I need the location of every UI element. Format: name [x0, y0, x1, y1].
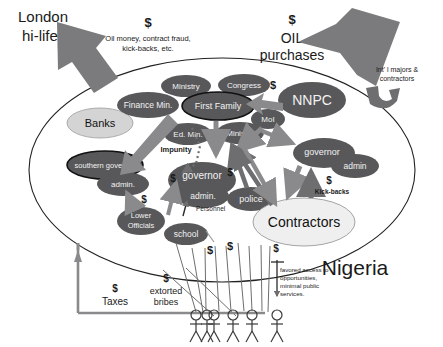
diagram-canvas: London hi-life $ Oil money, contract fra…	[0, 0, 443, 347]
node-contractors[interactable]: Contractors	[253, 198, 355, 246]
london-label-line1: London	[18, 8, 68, 25]
node-school-label: school	[174, 229, 199, 239]
citizen-figure	[227, 310, 239, 342]
node-congress-label: Congress	[227, 81, 261, 90]
node-police-label: police	[239, 194, 263, 204]
majors-exchange-arrows	[366, 86, 400, 108]
node-finance-min-label: Finance Min.	[124, 100, 173, 110]
node-school[interactable]: school	[164, 223, 208, 245]
arrow-ministry-to-governor-right	[262, 131, 292, 143]
favored-line2: opportunities,	[280, 274, 317, 281]
node-admin-right[interactable]: admin	[331, 154, 379, 178]
citizen-figure	[190, 310, 202, 342]
node-admin-center-label: admin.	[190, 191, 216, 201]
arrow-governor-right-down	[288, 166, 300, 196]
node-southern-admin-label: admin.	[111, 180, 135, 189]
dollar-left: $	[141, 194, 147, 205]
dollar-right-edge: $	[273, 243, 279, 254]
majors-line2: contractors	[380, 75, 415, 82]
dollar-nnpc: $	[270, 79, 276, 91]
taxes-dollar: $	[112, 283, 118, 294]
bribes-line2: bribes	[154, 297, 179, 307]
node-lower-officials-line2: Officials	[128, 221, 155, 230]
node-first-family[interactable]: First Family	[182, 92, 254, 120]
favored-line3: minimal public	[280, 282, 319, 289]
node-nnpc-label: NNPC	[292, 92, 332, 108]
oil-line2: purchases	[260, 47, 325, 63]
node-governor-right-label: governor	[304, 147, 340, 157]
node-ed-min-label: Ed. Min.	[173, 130, 202, 139]
dollar-school: $	[207, 244, 213, 256]
oil-line1: OIL	[281, 30, 304, 46]
node-lower-officials-line1: Lower	[131, 211, 152, 220]
taxes-label: Taxes	[102, 296, 128, 307]
bribes-dollar: $	[163, 273, 169, 284]
node-governor-center-label: governor	[182, 170, 222, 181]
node-admin-right-label: admin	[343, 161, 366, 171]
dollar-low: $	[170, 173, 176, 184]
citizen-figure	[271, 310, 283, 342]
personnel-label: Personnel	[196, 205, 226, 212]
dollar-mid-police: $	[227, 167, 233, 178]
node-southern-admin[interactable]: admin.	[97, 172, 149, 196]
favored-line4: services.	[280, 290, 305, 297]
node-first-family-label: First Family	[195, 101, 242, 111]
impunity-label: Impunity	[160, 145, 192, 154]
majors-line1: Int' l majors &	[376, 66, 419, 74]
citizens-group	[190, 310, 283, 342]
kickbacks-label: Kick-backs	[315, 188, 350, 195]
country-label: Nigeria	[322, 256, 389, 279]
dollar-school2: $	[227, 240, 233, 252]
oil-dollar: $	[288, 12, 296, 27]
node-finance-min[interactable]: Finance Min.	[117, 92, 179, 118]
oil-money-dollar: $	[144, 15, 152, 30]
london-label-line2: hi-life	[22, 27, 58, 44]
bribes-line1: extorted	[150, 286, 183, 296]
oil-money-line1: Oil money, contract fraud,	[105, 34, 190, 43]
node-banks-label: Banks	[85, 117, 116, 129]
node-lower-officials[interactable]: Lower Officials	[117, 207, 165, 235]
node-contractors-label: Contractors	[268, 214, 340, 230]
node-ministry-top-label: Ministry	[172, 82, 200, 91]
london-outflow-arrow	[57, 22, 118, 93]
oil-money-line2: kick-backs, etc.	[122, 44, 173, 53]
node-moi-label: MoI	[261, 115, 274, 124]
kickbacks-dollar: $	[326, 175, 332, 186]
citizen-figure	[246, 310, 258, 342]
node-nnpc[interactable]: NNPC	[278, 82, 346, 118]
